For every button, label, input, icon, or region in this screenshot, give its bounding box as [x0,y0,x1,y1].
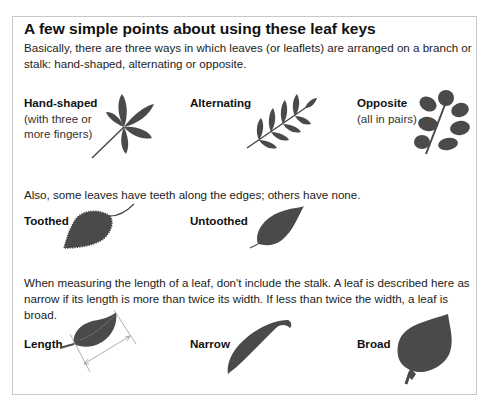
toothed-leaf-icon [62,204,138,250]
alternating-label: Alternating [190,96,251,109]
opposite-label: Opposite [357,96,407,109]
narrow-leaf-icon [226,318,294,376]
hand-shaped-leaf-icon [88,92,158,160]
hand-shaped-note: (with three or more fingers) [24,111,94,141]
untoothed-leaf-icon [248,206,306,250]
page-title: A few simple points about using these le… [24,20,376,38]
hand-shaped-label: Hand-shaped [24,96,97,109]
opposite-leaf-icon [416,90,472,156]
opposite-note: (all in pairs) [357,111,417,126]
broad-label: Broad [357,337,391,350]
broad-leaf-icon [396,314,454,386]
intro-text: Basically, there are three ways in which… [24,40,474,72]
length-measure-leaf-icon [58,310,140,376]
length-label: Length [24,337,63,350]
untoothed-label: Untoothed [190,214,248,227]
teeth-text: Also, some leaves have teeth along the e… [24,187,474,203]
narrow-label: Narrow [190,337,230,350]
alternating-leaf-icon [245,92,317,152]
